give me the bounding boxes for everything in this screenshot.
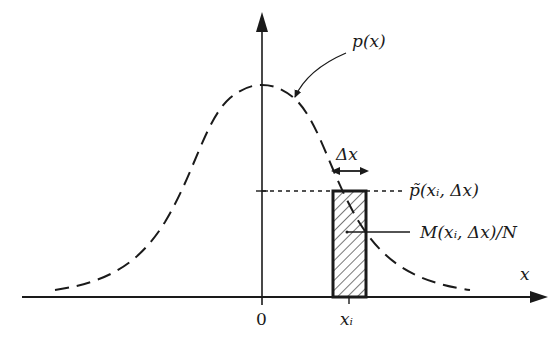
curve-label: p(x): [352, 31, 386, 51]
diagram-canvas: p(x) Δx p̃(xᵢ, Δx) M(xᵢ, Δx)/N x 0 xᵢ: [0, 0, 556, 342]
x-axis-label: x: [520, 264, 530, 284]
bin-count-label: M(xᵢ, Δx)/N: [419, 222, 518, 242]
histogram-bin: [333, 191, 366, 297]
delta-x-arrow: [331, 167, 369, 175]
y-axis-arrow-icon: [256, 12, 268, 32]
x-axis: [22, 291, 548, 303]
estimate-label: p̃(xᵢ, Δx): [409, 180, 479, 200]
delta-x-label: Δx: [335, 144, 358, 164]
x-axis-arrow-icon: [530, 291, 548, 303]
origin-label: 0: [256, 309, 267, 329]
y-axis: [256, 12, 268, 305]
curve-pointer-arrow: [295, 53, 346, 97]
bin-center-label: xᵢ: [340, 309, 353, 329]
